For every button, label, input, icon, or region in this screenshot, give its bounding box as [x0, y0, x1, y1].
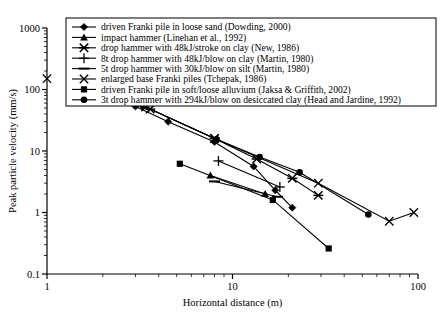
data-point [287, 174, 297, 182]
x-tick-label: 100 [410, 281, 426, 292]
circle-marker [256, 154, 263, 161]
circle-marker [213, 136, 220, 143]
data-point [365, 211, 372, 218]
data-point [213, 156, 223, 166]
data-point [385, 217, 393, 225]
y-tick-label: 1000 [19, 23, 40, 34]
data-point [313, 191, 323, 199]
series-group [206, 171, 269, 197]
y-tick-label: 100 [24, 84, 40, 95]
x-axis-title: Horizontal distance (m) [183, 297, 283, 309]
y-tick-label: 10 [30, 146, 41, 157]
circle-marker [81, 97, 88, 104]
data-point [326, 245, 332, 251]
data-point [165, 118, 172, 125]
y-tick-label: 1 [35, 207, 40, 218]
series-group [177, 161, 332, 252]
square-marker [177, 161, 183, 167]
y-axis-title: Peak particle velocity (mm/s) [7, 89, 19, 213]
chart-canvas: 0.11101001000110100Horizontal distance (… [0, 0, 444, 322]
circle-marker [365, 211, 372, 218]
diamond-marker [165, 118, 172, 125]
y-tick-label: 0.1 [27, 269, 40, 280]
square-marker [81, 86, 87, 92]
square-marker [326, 245, 332, 251]
legend-marker [81, 86, 87, 92]
data-point [213, 136, 220, 143]
x-tick-label: 1 [44, 281, 49, 292]
legend-item[interactable]: 3t drop hammer with 294kJ/blow on desicc… [72, 94, 401, 106]
circle-marker [296, 169, 303, 176]
data-point [270, 197, 276, 203]
series-line [150, 109, 318, 195]
legend-label: 3t drop hammer with 294kJ/blow on desicc… [101, 94, 401, 106]
series-line [136, 106, 293, 207]
square-marker [270, 197, 276, 203]
data-point [256, 154, 263, 161]
chart-figure: 0.11101001000110100Horizontal distance (… [0, 0, 444, 322]
data-point [177, 161, 183, 167]
series-line [218, 161, 279, 187]
data-point [410, 208, 418, 216]
series-group [213, 156, 284, 192]
x-tick-label: 10 [227, 281, 238, 292]
data-point [296, 169, 303, 176]
legend-marker [81, 97, 88, 104]
